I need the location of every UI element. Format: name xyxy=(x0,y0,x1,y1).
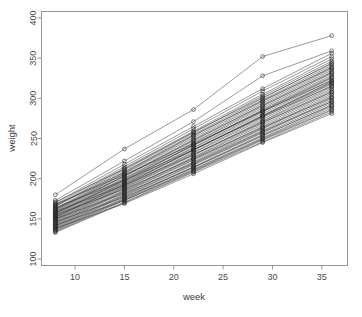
x-axis-title: week xyxy=(182,291,205,302)
y-tick-label: 100 xyxy=(29,252,39,267)
y-tick-label: 150 xyxy=(29,211,39,226)
y-tick-label: 400 xyxy=(29,10,39,25)
y-tick-label: 350 xyxy=(29,51,39,66)
x-tick-label: 25 xyxy=(218,272,228,282)
x-tick-label: 20 xyxy=(169,272,179,282)
weight-vs-week-spaghetti-plot: 100150200250300350400 101520253035 weigh… xyxy=(0,0,362,317)
y-tick-label: 200 xyxy=(29,171,39,186)
x-tick-label: 15 xyxy=(119,272,129,282)
y-axis-title: weight xyxy=(6,124,17,153)
chart-figure: 100150200250300350400 101520253035 weigh… xyxy=(0,0,362,317)
x-tick-label: 30 xyxy=(267,272,277,282)
y-tick-label: 300 xyxy=(29,91,39,106)
x-tick-label: 35 xyxy=(317,272,327,282)
x-tick-label: 10 xyxy=(70,272,80,282)
y-tick-label: 250 xyxy=(29,131,39,146)
